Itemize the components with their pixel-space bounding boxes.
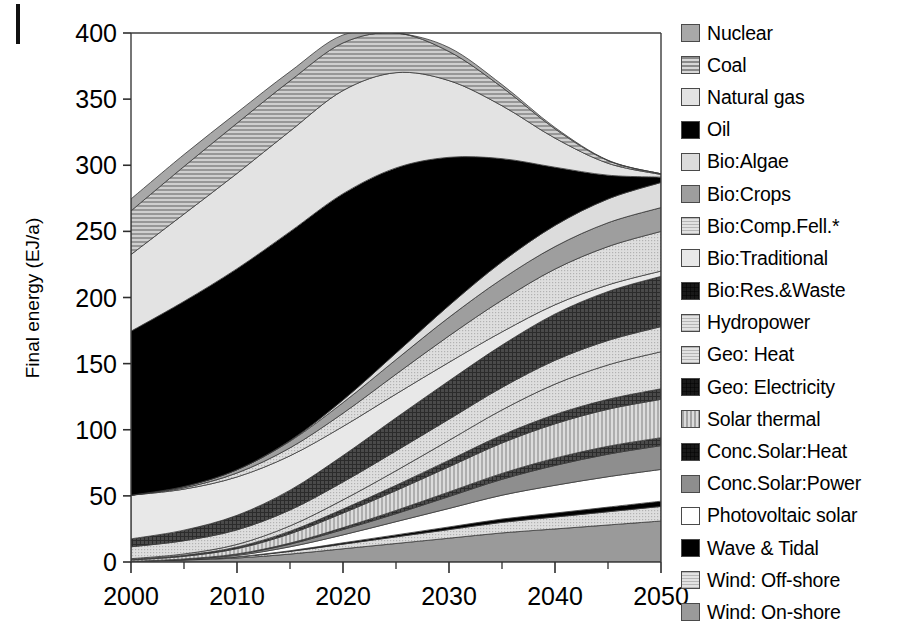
legend-swatch-icon: [681, 314, 700, 332]
legend-item[interactable]: Hydropower: [681, 307, 907, 339]
legend-item[interactable]: Natural gas: [681, 81, 907, 113]
y-tick-label: 300: [75, 151, 117, 179]
legend-item[interactable]: Coal: [681, 49, 907, 81]
chart-legend: NuclearCoalNatural gasOilBio:AlgaeBio:Cr…: [681, 17, 907, 629]
legend-swatch-icon: [681, 346, 700, 364]
legend-label: Bio:Res.&Waste: [707, 279, 845, 302]
legend-item[interactable]: Wind: On-shore: [681, 596, 907, 628]
legend-swatch-icon: [681, 378, 700, 396]
legend-swatch-icon: [681, 507, 700, 525]
legend-label: Wave & Tidal: [707, 537, 819, 560]
figure-root: 0501001502002503003504002000201020202030…: [0, 0, 907, 633]
area-series-group: [131, 31, 661, 562]
legend-label: Hydropower: [707, 311, 810, 334]
legend-swatch-icon: [681, 443, 700, 461]
y-axis-title: Final energy (EJ/a): [22, 218, 43, 379]
legend-item[interactable]: Wave & Tidal: [681, 532, 907, 564]
y-tick-label: 100: [75, 416, 117, 444]
y-tick-label: 0: [103, 548, 117, 576]
legend-item[interactable]: Bio:Algae: [681, 146, 907, 178]
legend-swatch-icon: [681, 217, 700, 235]
legend-label: Conc.Solar:Power: [707, 472, 861, 495]
legend-item[interactable]: Geo: Heat: [681, 339, 907, 371]
legend-swatch-icon: [681, 571, 700, 589]
legend-item[interactable]: Bio:Res.&Waste: [681, 275, 907, 307]
legend-label: Nuclear: [707, 22, 773, 45]
legend-label: Bio:Crops: [707, 183, 791, 206]
legend-swatch-icon: [681, 153, 700, 171]
x-tick-label: 2000: [103, 582, 159, 610]
legend-item[interactable]: Bio:Comp.Fell.*: [681, 210, 907, 242]
legend-label: Coal: [707, 54, 746, 77]
legend-item[interactable]: Photovoltaic solar: [681, 500, 907, 532]
legend-label: Conc.Solar:Heat: [707, 440, 847, 463]
legend-swatch-icon: [681, 121, 700, 139]
legend-item[interactable]: Bio:Crops: [681, 178, 907, 210]
y-tick-label: 350: [75, 85, 117, 113]
x-tick-label: 2010: [209, 582, 265, 610]
x-tick-label: 2030: [421, 582, 477, 610]
legend-swatch-icon: [681, 249, 700, 267]
legend-swatch-icon: [681, 603, 700, 621]
legend-item[interactable]: Conc.Solar:Heat: [681, 435, 907, 467]
legend-item[interactable]: Geo: Electricity: [681, 371, 907, 403]
y-tick-label: 150: [75, 350, 117, 378]
x-tick-label: 2020: [315, 582, 371, 610]
legend-swatch-icon: [681, 282, 700, 300]
legend-label: Wind: Off-shore: [707, 569, 840, 592]
y-tick-label: 200: [75, 284, 117, 312]
legend-item[interactable]: Oil: [681, 114, 907, 146]
legend-swatch-icon: [681, 539, 700, 557]
legend-label: Natural gas: [707, 86, 805, 109]
x-tick-label: 2040: [527, 582, 583, 610]
legend-label: Solar thermal: [707, 408, 820, 431]
legend-label: Oil: [707, 118, 730, 141]
legend-label: Geo: Electricity: [707, 376, 835, 399]
legend-item[interactable]: Solar thermal: [681, 403, 907, 435]
legend-label: Bio:Comp.Fell.*: [707, 215, 839, 238]
legend-item[interactable]: Bio:Traditional: [681, 242, 907, 274]
legend-swatch-icon: [681, 410, 700, 428]
legend-item[interactable]: Conc.Solar:Power: [681, 468, 907, 500]
legend-label: Wind: On-shore: [707, 601, 841, 624]
legend-swatch-icon: [681, 88, 700, 106]
legend-swatch-icon: [681, 185, 700, 203]
legend-swatch-icon: [681, 56, 700, 74]
legend-label: Bio:Algae: [707, 150, 789, 173]
legend-swatch-icon: [681, 475, 700, 493]
legend-swatch-icon: [681, 24, 700, 42]
legend-label: Geo: Heat: [707, 343, 794, 366]
legend-label: Photovoltaic solar: [707, 504, 857, 527]
legend-item[interactable]: Wind: Off-shore: [681, 564, 907, 596]
legend-label: Bio:Traditional: [707, 247, 828, 270]
y-tick-label: 50: [89, 482, 117, 510]
y-tick-label: 400: [75, 19, 117, 47]
y-tick-label: 250: [75, 217, 117, 245]
legend-item[interactable]: Nuclear: [681, 17, 907, 49]
